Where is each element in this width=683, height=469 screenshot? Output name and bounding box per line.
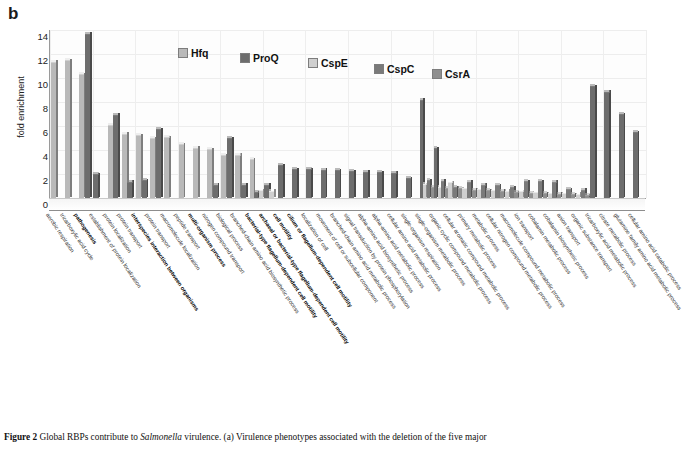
- legend-item-csra[interactable]: CsrA: [432, 68, 470, 80]
- bar-side: [297, 168, 299, 197]
- bar: [363, 172, 368, 198]
- bar-top: [179, 142, 184, 145]
- bar-top: [221, 153, 226, 156]
- bar-side: [132, 180, 134, 196]
- bar: [221, 155, 226, 198]
- bar: [51, 62, 56, 198]
- bar-top: [552, 180, 556, 183]
- bar-side: [161, 128, 163, 197]
- legend-item-proq[interactable]: ProQ: [240, 52, 279, 64]
- bar-top: [349, 169, 354, 172]
- bar-top: [93, 172, 98, 175]
- bar: [241, 185, 246, 198]
- bar-side: [382, 171, 384, 197]
- bar-top: [156, 127, 161, 130]
- bar-top: [604, 90, 609, 93]
- bar-top: [472, 188, 476, 191]
- legend-label: CspC: [387, 63, 414, 75]
- bar: [142, 180, 147, 198]
- bar-top: [491, 188, 495, 191]
- bar-top: [65, 58, 70, 61]
- bar-side: [218, 183, 220, 196]
- bar-top: [127, 180, 132, 183]
- bar-side: [169, 136, 171, 197]
- bar: [321, 170, 326, 198]
- bar-top: [481, 183, 485, 186]
- bar-side: [311, 168, 313, 197]
- bar-top: [434, 146, 437, 149]
- bar: [65, 60, 70, 198]
- caption-text-1: Global RBPs contribute to: [39, 432, 140, 442]
- bar: [250, 159, 254, 198]
- bar-top: [543, 191, 547, 194]
- bar-top: [254, 190, 258, 193]
- bar-side: [609, 90, 611, 196]
- bar-side: [624, 113, 626, 197]
- bar-top: [241, 183, 246, 186]
- bar: [113, 115, 118, 198]
- bar-top: [113, 113, 118, 116]
- legend-label: ProQ: [253, 52, 279, 64]
- bar-side: [326, 168, 328, 196]
- bar: [633, 132, 638, 198]
- bar: [604, 92, 609, 198]
- bar: [93, 174, 98, 198]
- legend-item-cspc[interactable]: CspC: [374, 63, 414, 75]
- bar-top: [533, 190, 537, 193]
- bar: [207, 149, 212, 198]
- panel-label-b: b: [8, 4, 18, 24]
- bar: [156, 129, 161, 198]
- bar-side: [595, 85, 597, 197]
- bar: [458, 188, 462, 198]
- bar: [179, 144, 184, 198]
- bar: [467, 182, 471, 198]
- figure-caption: Figure 2 Global RBPs contribute to Salmo…: [4, 431, 652, 443]
- bar: [278, 165, 283, 198]
- bar-top: [259, 188, 263, 191]
- bar: [213, 185, 218, 198]
- bar-top: [264, 183, 269, 186]
- legend-swatch-icon: [240, 53, 250, 63]
- bar-side: [396, 171, 398, 196]
- legend-label: CsrA: [445, 68, 470, 80]
- bar-top: [486, 188, 490, 191]
- bar-side: [98, 173, 100, 197]
- legend-swatch-icon: [178, 48, 188, 58]
- legend-item-hfq[interactable]: Hfq: [178, 47, 209, 59]
- bar: [335, 170, 340, 198]
- bar-top: [562, 191, 566, 194]
- bar: [538, 181, 542, 198]
- chart-legend: HfqProQCspECspCCsrA: [178, 47, 488, 81]
- x-category-label: cellular amino acid catabolic process: [627, 212, 683, 291]
- bar: [306, 169, 311, 198]
- bar-top: [557, 192, 561, 195]
- y-tick-14: 14: [24, 31, 48, 42]
- bar-top: [51, 60, 56, 63]
- legend-item-cspe[interactable]: CspE: [308, 57, 348, 69]
- bar-side: [70, 59, 72, 197]
- bar-top: [150, 136, 155, 139]
- bar-top: [391, 171, 396, 174]
- bar: [349, 171, 354, 198]
- x-axis-category-labels: aerobic respirationtricarboxylic acid cy…: [0, 212, 654, 412]
- bar: [481, 185, 485, 198]
- bar-side: [198, 146, 200, 196]
- bar-top: [548, 191, 552, 194]
- bar-top: [406, 176, 411, 179]
- bar-top: [377, 170, 382, 173]
- legend-swatch-icon: [308, 58, 318, 68]
- bar-top: [292, 167, 297, 170]
- bar-top: [576, 192, 580, 195]
- bar-side: [368, 170, 370, 196]
- bar-top: [278, 163, 283, 166]
- bar-top: [235, 153, 240, 156]
- bar-top: [108, 123, 113, 126]
- bar-side: [340, 169, 342, 197]
- legend-swatch-icon: [432, 69, 442, 79]
- legend-label: Hfq: [191, 47, 209, 59]
- caption-text-2: virulence. (a) Virulence phenotypes asso…: [182, 432, 487, 442]
- bar: [377, 172, 382, 198]
- bar-top: [458, 186, 462, 189]
- bar: [566, 189, 570, 198]
- bar-side: [56, 60, 58, 196]
